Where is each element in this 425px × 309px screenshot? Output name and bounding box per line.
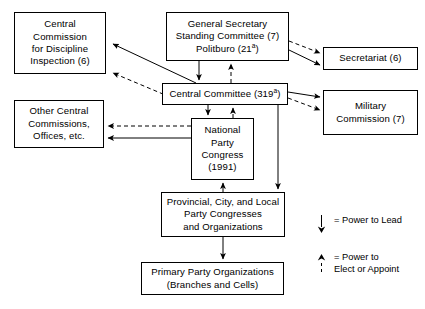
node-line: Commissions, <box>28 118 89 130</box>
node-line: Commission (7) <box>336 113 405 125</box>
node-national-party-congress: National Party Congress (1991) <box>191 118 254 180</box>
node-provincial-city-local-party-congresses: Provincial, City, and Local Party Congre… <box>161 192 285 237</box>
edge-cc-to-military-appoint <box>288 98 320 110</box>
node-line: Standing Committee (7) <box>176 30 280 42</box>
node-line: Party Congresses <box>184 208 262 220</box>
legend-power-to-elect-or-appoint: = Power to Elect or Appoint <box>316 251 399 276</box>
legend-label: = Power to Lead <box>334 214 402 226</box>
node-central-commission-discipline-inspection: Central Commission for Discipline Inspec… <box>14 12 106 74</box>
node-secretariat: Secretariat (6) <box>323 47 418 70</box>
legend-label: = Power to Elect or Appoint <box>334 251 399 275</box>
solid-down-arrow-icon <box>316 214 334 237</box>
node-central-committee: Central Committee (319a) <box>162 83 288 105</box>
node-line: Party <box>211 137 234 149</box>
node-line: Commission <box>33 31 87 43</box>
node-line: Provincial, City, and Local <box>167 196 279 208</box>
node-military-commission: Military Commission (7) <box>323 90 418 135</box>
edge-gs-to-secretariat-appoint <box>289 41 320 53</box>
node-line-politburo: Politburo (21a) <box>196 43 259 55</box>
node-line: for Discipline <box>32 43 88 55</box>
edge-cc-to-military-lead <box>288 92 320 97</box>
edge-gs-to-secretariat-lead <box>289 50 320 65</box>
node-line-central-committee: Central Committee (319a) <box>169 88 280 100</box>
dashed-up-arrow-icon <box>316 251 334 276</box>
node-line: National <box>205 124 241 136</box>
node-line: Inspection (6) <box>30 55 90 67</box>
footnote-marker-a: a <box>273 87 277 94</box>
node-line: and Organizations <box>183 221 263 233</box>
node-line: Congress <box>202 149 244 161</box>
node-line: Secretariat (6) <box>339 52 401 64</box>
node-line: Military <box>355 100 386 112</box>
node-general-secretary-standing-committee-politburo: General Secretary Standing Committee (7)… <box>166 12 289 61</box>
node-other-central-commissions-offices: Other Central Commissions, Offices, etc. <box>14 100 104 148</box>
node-line: Central <box>44 18 76 30</box>
node-line: Offices, etc. <box>33 130 85 142</box>
node-line: Primary Party Organizations <box>151 266 274 278</box>
org-chart-diagram: Central Commission for Discipline Inspec… <box>0 0 425 309</box>
node-line: (1991) <box>208 161 236 173</box>
legend-power-to-lead: = Power to Lead <box>316 214 402 237</box>
node-line: General Secretary <box>188 18 268 30</box>
node-line: Other Central <box>30 105 89 117</box>
footnote-marker-a: a <box>252 42 256 49</box>
node-primary-party-organizations: Primary Party Organizations (Branches an… <box>141 262 284 295</box>
node-line: (Branches and Cells) <box>167 279 259 291</box>
